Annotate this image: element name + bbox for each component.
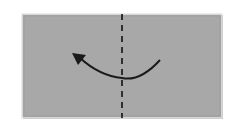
fold-diagram — [0, 0, 233, 127]
